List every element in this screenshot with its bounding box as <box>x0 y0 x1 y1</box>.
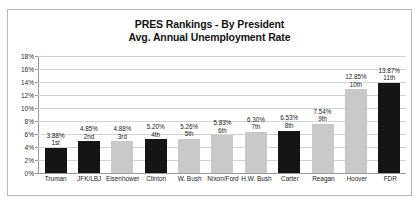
y-axis-tick-label: 14% <box>21 79 34 86</box>
bar-rank: 8th <box>280 122 298 130</box>
y-axis-tick-mark <box>35 108 38 109</box>
y-axis-tick-mark <box>35 173 38 174</box>
y-axis-tick-mark <box>35 134 38 135</box>
bar-value-label: 5.20%4th <box>147 123 165 138</box>
bar-value: 7.54% <box>314 108 332 115</box>
y-axis-tick-label: 2% <box>25 157 34 164</box>
bar-value: 4.88% <box>113 125 131 132</box>
x-axis-tick-label: W. Bush <box>173 175 206 182</box>
bar-series: 3.88%1st4.85%2nd4.88%3rd5.20%4th5.26%5th… <box>39 56 406 173</box>
bar-value-label: 6.30%7th <box>247 116 265 131</box>
bar-value: 4.85% <box>80 125 98 132</box>
bar-value-label: 5.83%6th <box>214 119 232 134</box>
bar-value: 12.85% <box>345 73 366 80</box>
bar-value: 6.30% <box>247 116 265 123</box>
x-axis-tick-label: JFK/LBJ <box>72 175 105 182</box>
bar[interactable]: 5.26%5th <box>178 139 200 173</box>
y-axis-tick-mark <box>35 82 38 83</box>
bar-rank: 7th <box>247 123 265 131</box>
y-axis-tick-label: 4% <box>25 144 34 151</box>
bar-rank: 1st <box>47 139 65 147</box>
bar[interactable]: 7.54%9th <box>312 124 334 173</box>
x-axis-tick-label: H.W. Bush <box>240 175 273 182</box>
bar-value: 5.20% <box>147 123 165 130</box>
bar-slot: 12.85%10th <box>339 56 372 173</box>
bar-value-label: 4.85%2nd <box>80 125 98 140</box>
bar-slot: 5.83%6th <box>206 56 239 173</box>
bar-slot: 7.54%9th <box>306 56 339 173</box>
x-axis-tick-label: Carter <box>273 175 306 182</box>
bar-rank: 5th <box>180 130 198 138</box>
bar[interactable]: 5.83%6th <box>211 135 233 173</box>
bar-slot: 3.88%1st <box>39 56 72 173</box>
x-axis-tick-label: Nixon/Ford <box>206 175 239 182</box>
bar-slot: 4.85%2nd <box>72 56 105 173</box>
y-axis-tick-mark <box>35 95 38 96</box>
bar-rank: 4th <box>147 131 165 139</box>
y-axis-tick-mark <box>35 160 38 161</box>
y-axis-tick-label: 10% <box>21 105 34 112</box>
chart-subtitle: Avg. Annual Unemployment Rate <box>8 31 411 44</box>
bar-rank: 10th <box>345 81 366 89</box>
bar-value: 3.88% <box>47 132 65 139</box>
y-axis-tick-label: 18% <box>21 53 34 60</box>
bar-value: 5.26% <box>180 123 198 130</box>
bar-slot: 6.53%8th <box>273 56 306 173</box>
plot-area: 0%2%4%6%8%10%12%14%16%18% 3.88%1st4.85%2… <box>38 56 406 173</box>
bar[interactable]: 4.88%3rd <box>111 141 133 173</box>
bar-rank: 6th <box>214 127 232 135</box>
y-axis-tick-mark <box>35 56 38 57</box>
x-axis-tick-label: Hoover <box>340 175 373 182</box>
bar[interactable]: 6.53%8th <box>278 131 300 173</box>
bar-value-label: 5.26%5th <box>180 123 198 138</box>
bar-slot: 4.88%3rd <box>106 56 139 173</box>
bar-value: 5.83% <box>214 119 232 126</box>
x-axis-tick-label: Clinton <box>139 175 172 182</box>
bar-value: 6.53% <box>280 114 298 121</box>
bar[interactable]: 6.30%7th <box>245 132 267 173</box>
y-axis-tick-label: 16% <box>21 66 34 73</box>
chart-frame: PRES Rankings - By President Avg. Annual… <box>7 9 412 196</box>
chart-title-line1: PRES Rankings - By President <box>135 18 285 30</box>
y-axis-tick-mark <box>35 147 38 148</box>
bar[interactable]: 12.85%10th <box>345 89 367 173</box>
bar-slot: 13.87%11th <box>373 56 406 173</box>
bar[interactable]: 3.88%1st <box>45 148 67 173</box>
y-axis-tick-label: 6% <box>25 131 34 138</box>
bar-value-label: 13.87%11th <box>379 67 400 82</box>
bar-rank: 9th <box>314 115 332 123</box>
bar[interactable]: 13.87%11th <box>378 83 400 173</box>
bar-value-label: 3.88%1st <box>47 132 65 147</box>
y-axis-tick-label: 8% <box>25 118 34 125</box>
bar[interactable]: 4.85%2nd <box>78 141 100 173</box>
y-axis-tick-mark <box>35 121 38 122</box>
bar-value-label: 12.85%10th <box>345 73 366 88</box>
bar-value-label: 7.54%9th <box>314 108 332 123</box>
y-axis-tick-mark <box>35 69 38 70</box>
x-axis-tick-label: Eisenhower <box>106 175 139 182</box>
bar-slot: 6.30%7th <box>239 56 272 173</box>
bar-value: 13.87% <box>379 67 400 74</box>
y-axis-tick-label: 12% <box>21 92 34 99</box>
x-axis-tick-label: Reagan <box>307 175 340 182</box>
gridline <box>38 173 406 174</box>
x-axis-tick-label: Truman <box>39 175 72 182</box>
bar-rank: 11th <box>379 74 400 82</box>
bar-value-label: 4.88%3rd <box>113 125 131 140</box>
bar-rank: 2nd <box>80 133 98 141</box>
bar[interactable]: 5.20%4th <box>145 139 167 173</box>
bar-value-label: 6.53%8th <box>280 114 298 129</box>
bar-slot: 5.26%5th <box>172 56 205 173</box>
bar-rank: 3rd <box>113 133 131 141</box>
bar-slot: 5.20%4th <box>139 56 172 173</box>
y-axis-tick-label: 0% <box>25 170 34 177</box>
x-axis-tick-label: FDR <box>374 175 407 182</box>
chart-title: PRES Rankings - By President Avg. Annual… <box>8 18 411 44</box>
x-axis-labels: TrumanJFK/LBJEisenhowerClintonW. BushNix… <box>39 175 407 182</box>
